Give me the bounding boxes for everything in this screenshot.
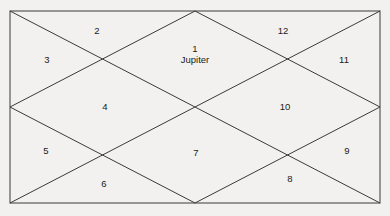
chart-lines-svg — [0, 0, 390, 216]
birth-chart-container: 1 Jupiter 2 3 4 5 6 7 8 9 10 11 12 — [0, 0, 390, 216]
